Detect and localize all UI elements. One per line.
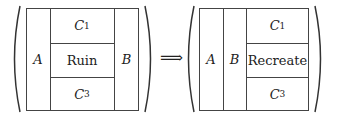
right-paren-open: [182, 4, 196, 114]
implies-arrow: ⟹: [160, 48, 183, 67]
left-paren-open: [8, 4, 22, 114]
right-cell-c3: C3: [246, 77, 309, 111]
left-cell-c3: C3: [50, 77, 114, 111]
right-col-a: A: [199, 8, 223, 111]
left-col-a: A: [26, 8, 50, 111]
left-cell-ruin: Ruin: [50, 43, 114, 77]
left-paren-close: [143, 4, 157, 114]
right-paren-close: [313, 4, 327, 114]
right-cell-recreate: Recreate: [246, 43, 309, 77]
right-cell-c1: C1: [246, 8, 309, 43]
left-cell-c1: C1: [50, 8, 114, 43]
left-col-b: B: [114, 8, 139, 111]
right-col-b: B: [223, 8, 246, 111]
